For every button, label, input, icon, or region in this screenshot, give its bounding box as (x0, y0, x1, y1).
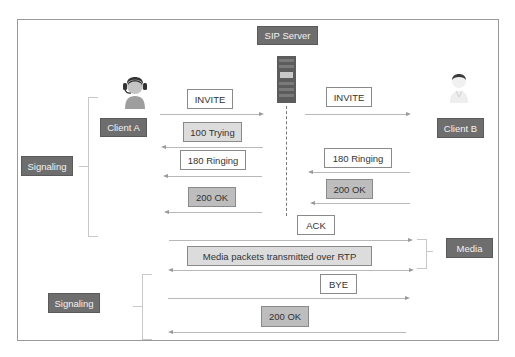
arrow-200-ok-a (166, 212, 262, 213)
message-200-ok-a: 200 OK (188, 187, 236, 207)
client-a-label: Client A (100, 118, 147, 137)
message-100-trying: 100 Trying (183, 122, 242, 142)
sip-server-label: SIP Server (257, 26, 318, 45)
message-180-ringing-b: 180 Ringing (324, 148, 392, 168)
signaling-teardown-bracket (142, 274, 152, 340)
message-ack: ACK (297, 215, 335, 235)
media-group-label: Media (446, 238, 493, 258)
message-200-ok-bye: 200 OK (261, 306, 309, 327)
arrow-200-ok-bye (170, 332, 406, 333)
message-invite-b: INVITE (326, 87, 372, 107)
arrow-bye (168, 298, 408, 299)
message-rtp-media: Media packets transmitted over RTP (187, 246, 372, 266)
server-rack-icon (277, 56, 296, 103)
signaling-bracket (88, 97, 98, 237)
arrow-invite-a (160, 114, 262, 115)
arrow-ack (169, 240, 411, 241)
user-icon (447, 67, 471, 103)
client-b-label: Client B (437, 118, 484, 138)
arrow-200-ok-b (312, 203, 410, 204)
arrow-180-ringing-b (310, 172, 410, 173)
message-180-ringing-a: 180 Ringing (180, 150, 246, 170)
arrow-rtp-media (170, 270, 412, 271)
message-bye: BYE (320, 274, 357, 294)
arrow-invite-b (305, 114, 409, 115)
signaling-teardown-label: Signaling (48, 293, 100, 313)
headset-user-icon (119, 73, 151, 109)
arrow-100-trying (163, 147, 263, 148)
media-bracket (417, 239, 427, 269)
message-invite-a: INVITE (187, 89, 233, 109)
server-lifeline (286, 106, 287, 216)
message-200-ok-b: 200 OK (326, 179, 373, 199)
signaling-group-label: Signaling (21, 156, 73, 176)
media-bracket-tick (427, 251, 433, 252)
arrow-180-ringing-a (165, 176, 262, 177)
